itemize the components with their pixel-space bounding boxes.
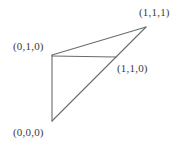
triangle-figure-svg — [0, 0, 180, 146]
vertex-label-1-1-1: (1,1,1) — [139, 6, 170, 18]
vertex-label-1-1-0: (1,1,0) — [117, 62, 148, 74]
horizontal-edge — [52, 56, 116, 57]
diagram-canvas: (1,1,1) (0,1,0) (1,1,0) (0,0,0) — [0, 0, 180, 146]
vertex-label-0-0-0: (0,0,0) — [13, 126, 44, 138]
vertex-label-0-1-0: (0,1,0) — [13, 40, 44, 52]
